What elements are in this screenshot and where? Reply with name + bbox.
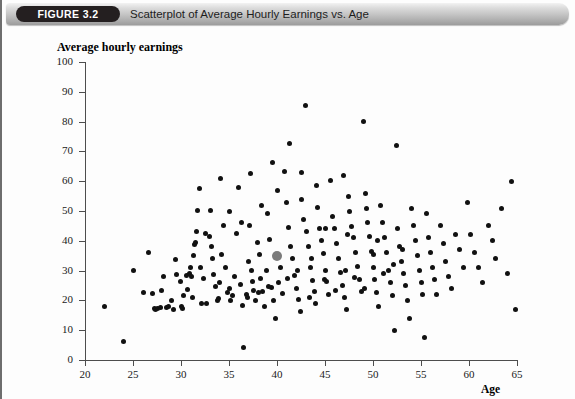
data-point — [292, 273, 297, 278]
data-point — [426, 235, 431, 240]
data-point — [371, 265, 376, 270]
data-point — [323, 268, 328, 273]
data-point — [313, 301, 318, 306]
data-point — [345, 232, 350, 237]
x-tick-label: 45 — [310, 368, 340, 380]
data-point — [256, 290, 261, 295]
y-tick-label: 40 — [43, 234, 73, 246]
data-point — [384, 250, 389, 255]
data-point — [465, 200, 470, 205]
data-point — [158, 305, 163, 310]
data-point — [255, 240, 260, 245]
data-point — [413, 238, 418, 243]
x-tick-label: 55 — [406, 368, 436, 380]
data-point — [294, 286, 299, 291]
data-point — [280, 291, 285, 296]
data-point — [197, 186, 202, 191]
y-tick — [79, 62, 85, 63]
x-tick — [469, 360, 470, 366]
data-point — [201, 276, 206, 281]
data-point — [217, 280, 222, 285]
data-point — [174, 272, 179, 277]
data-point — [121, 339, 126, 344]
data-point — [238, 282, 243, 287]
highlighted-data-point — [272, 251, 282, 261]
data-point — [169, 298, 174, 303]
data-point — [365, 220, 370, 225]
data-point — [364, 206, 369, 211]
data-point — [403, 283, 408, 288]
data-point — [319, 238, 324, 243]
data-point — [334, 241, 339, 246]
data-point — [306, 244, 311, 249]
data-point — [159, 288, 164, 293]
data-point — [457, 247, 462, 252]
data-point — [332, 226, 337, 231]
data-point — [299, 197, 304, 202]
data-point — [378, 203, 383, 208]
data-point — [218, 176, 223, 181]
data-point — [198, 265, 203, 270]
data-point — [342, 295, 347, 300]
data-point — [141, 290, 146, 295]
data-point — [102, 304, 107, 309]
data-point — [432, 277, 437, 282]
y-tick — [79, 181, 85, 182]
data-point — [232, 274, 237, 279]
data-point — [493, 256, 498, 261]
y-tick — [79, 122, 85, 123]
data-point — [449, 286, 454, 291]
x-tick — [133, 360, 134, 366]
data-point — [239, 220, 244, 225]
data-point — [265, 211, 270, 216]
data-point — [199, 301, 204, 306]
x-tick-label: 30 — [166, 368, 196, 380]
x-tick — [277, 360, 278, 366]
data-point — [321, 251, 326, 256]
data-point — [253, 298, 258, 303]
data-point — [419, 280, 424, 285]
data-point — [236, 185, 241, 190]
data-point — [381, 271, 386, 276]
data-point — [303, 103, 308, 108]
data-point — [282, 169, 287, 174]
data-point — [257, 252, 262, 257]
data-point — [326, 292, 331, 297]
data-point — [249, 268, 254, 273]
data-point — [216, 296, 221, 301]
data-point — [376, 304, 381, 309]
data-point — [399, 259, 404, 264]
data-point — [250, 279, 255, 284]
y-tick-label: 70 — [43, 144, 73, 156]
data-point — [194, 229, 199, 234]
data-point — [248, 171, 253, 176]
x-tick — [181, 360, 182, 366]
data-point — [288, 244, 293, 249]
data-point — [513, 307, 518, 312]
data-point — [411, 223, 416, 228]
figure-container: FIGURE 3.2 Scatterplot of Average Hourly… — [0, 0, 575, 399]
data-point — [284, 200, 289, 205]
data-point — [259, 203, 264, 208]
data-point — [190, 295, 195, 300]
data-point — [204, 301, 209, 306]
data-point — [298, 309, 303, 314]
y-tick-label: 50 — [43, 204, 73, 216]
data-point — [314, 183, 319, 188]
data-point — [304, 229, 309, 234]
figure-title: Scatterplot of Average Hourly Earnings v… — [130, 6, 369, 22]
data-point — [505, 271, 510, 276]
data-point — [210, 256, 215, 261]
data-point — [362, 286, 367, 291]
y-tick — [79, 211, 85, 212]
data-point — [275, 188, 280, 193]
data-point — [312, 289, 317, 294]
data-point — [173, 257, 178, 262]
data-point — [287, 141, 292, 146]
data-point — [208, 208, 213, 213]
data-point — [230, 293, 235, 298]
data-point — [221, 223, 226, 228]
data-point — [267, 237, 272, 242]
x-tick — [373, 360, 374, 366]
x-tick — [85, 360, 86, 366]
